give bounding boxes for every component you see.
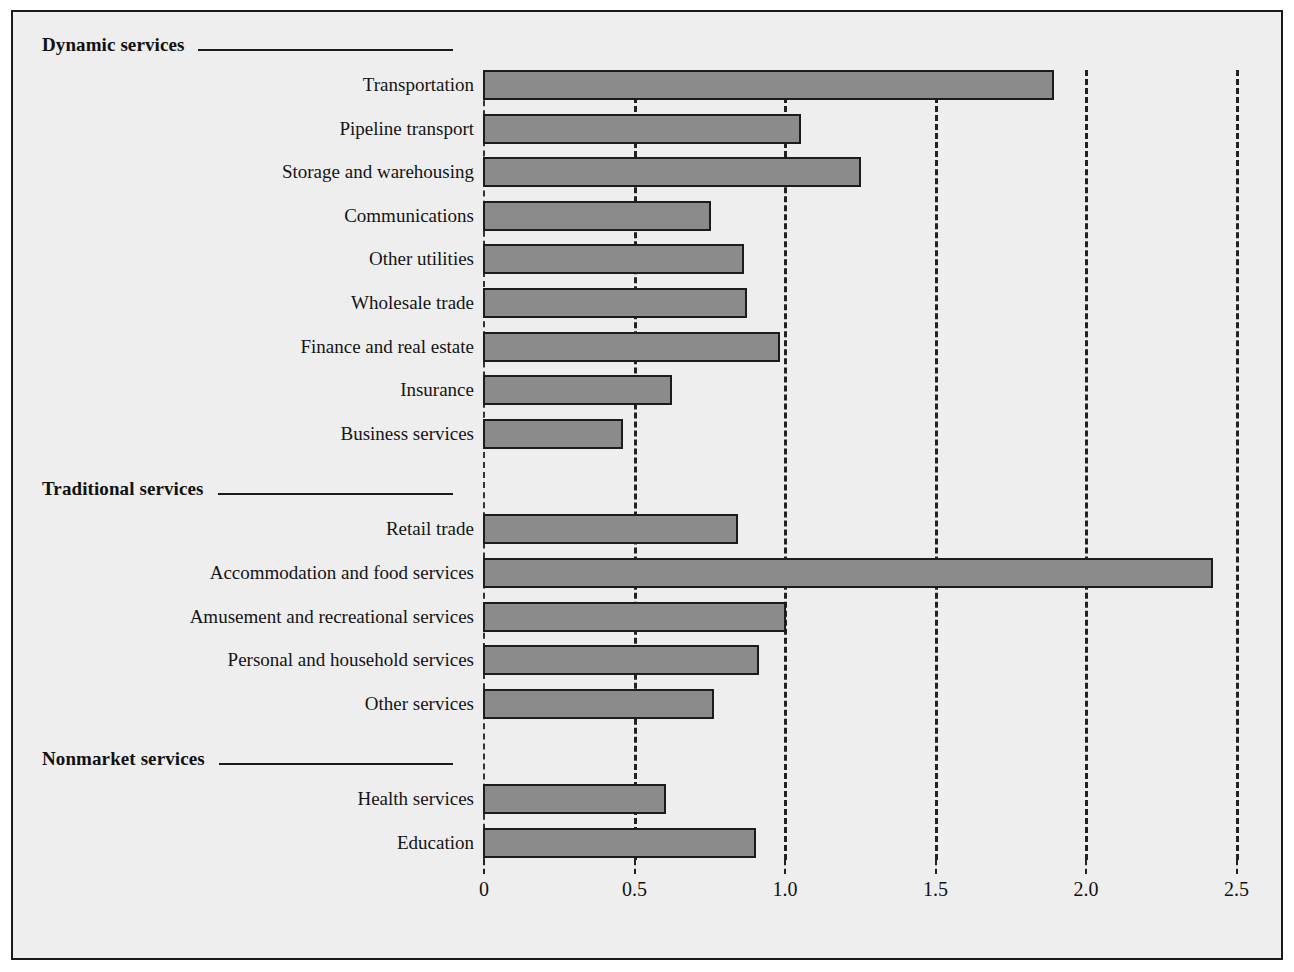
bar-row: Transportation <box>13 70 1285 100</box>
bar-row: Other utilities <box>13 244 1285 274</box>
bar <box>483 645 759 675</box>
x-tick-mark-1.5 <box>935 860 937 874</box>
bar <box>483 419 623 449</box>
bar-category-label: Business services <box>340 419 474 449</box>
bar <box>483 70 1054 100</box>
group-header-rule <box>219 763 453 765</box>
group-header-label: Dynamic services <box>42 34 184 56</box>
gridline-1.0 <box>784 70 787 860</box>
chart-panel: Dynamic servicesTransportationPipeline t… <box>11 10 1283 960</box>
bar-row: Wholesale trade <box>13 288 1285 318</box>
group-header-label: Nonmarket services <box>42 748 205 770</box>
figure-canvas: Dynamic servicesTransportationPipeline t… <box>0 0 1294 972</box>
group-header-traditional-services: Traditional services <box>42 476 453 502</box>
bar-row: Communications <box>13 201 1285 231</box>
bar-row: Accommodation and food services <box>13 558 1285 588</box>
bar-category-label: Insurance <box>400 375 474 405</box>
x-tick-label-0.5: 0.5 <box>622 878 647 901</box>
x-tick-label-0: 0 <box>479 878 489 901</box>
bar <box>483 244 744 274</box>
bar <box>483 332 780 362</box>
group-header-rule <box>218 493 453 495</box>
bar <box>483 114 801 144</box>
bar <box>483 375 672 405</box>
x-tick-mark-0.5 <box>634 860 636 874</box>
bar-category-label: Pipeline transport <box>339 114 474 144</box>
bar <box>483 514 738 544</box>
bar-category-label: Retail trade <box>386 514 474 544</box>
gridline-0 <box>483 70 485 860</box>
bar-category-label: Health services <box>357 784 474 814</box>
bar-row: Personal and household services <box>13 645 1285 675</box>
x-tick-label-1.0: 1.0 <box>773 878 798 901</box>
x-tick-mark-2.0 <box>1085 860 1087 874</box>
group-header-rule <box>198 49 453 51</box>
x-tick-mark-2.5 <box>1236 860 1238 874</box>
gridline-0.5 <box>634 70 637 860</box>
gridline-2.5 <box>1236 70 1239 860</box>
bar-row: Other services <box>13 689 1285 719</box>
bar-row: Business services <box>13 419 1285 449</box>
bar-category-label: Education <box>397 828 474 858</box>
bar <box>483 558 1213 588</box>
bar-row: Insurance <box>13 375 1285 405</box>
plot-area: Dynamic servicesTransportationPipeline t… <box>13 12 1285 962</box>
group-header-nonmarket-services: Nonmarket services <box>42 746 453 772</box>
bar-category-label: Personal and household services <box>228 645 474 675</box>
gridline-1.5 <box>935 70 938 860</box>
bar-category-label: Storage and warehousing <box>282 157 474 187</box>
x-tick-label-1.5: 1.5 <box>923 878 948 901</box>
bar <box>483 602 786 632</box>
bar <box>483 288 747 318</box>
bar <box>483 828 756 858</box>
bar-row: Storage and warehousing <box>13 157 1285 187</box>
x-tick-label-2.0: 2.0 <box>1074 878 1099 901</box>
bar-category-label: Communications <box>344 201 474 231</box>
group-header-dynamic-services: Dynamic services <box>42 32 453 58</box>
bar <box>483 689 714 719</box>
bar-category-label: Other services <box>365 689 474 719</box>
bar-category-label: Wholesale trade <box>351 288 474 318</box>
group-header-label: Traditional services <box>42 478 204 500</box>
bar-category-label: Amusement and recreational services <box>190 602 474 632</box>
x-tick-label-2.5: 2.5 <box>1224 878 1249 901</box>
bar-row: Retail trade <box>13 514 1285 544</box>
gridline-2.0 <box>1085 70 1088 860</box>
bar-row: Education <box>13 828 1285 858</box>
bar-category-label: Finance and real estate <box>300 332 474 362</box>
x-tick-mark-1.0 <box>784 860 786 874</box>
bar <box>483 201 711 231</box>
bar-category-label: Transportation <box>363 70 474 100</box>
bar <box>483 784 666 814</box>
bar <box>483 157 861 187</box>
bar-row: Health services <box>13 784 1285 814</box>
bar-row: Pipeline transport <box>13 114 1285 144</box>
x-tick-mark-0 <box>483 860 485 874</box>
bar-category-label: Accommodation and food services <box>210 558 474 588</box>
bar-row: Finance and real estate <box>13 332 1285 362</box>
bar-row: Amusement and recreational services <box>13 602 1285 632</box>
bar-category-label: Other utilities <box>369 244 474 274</box>
